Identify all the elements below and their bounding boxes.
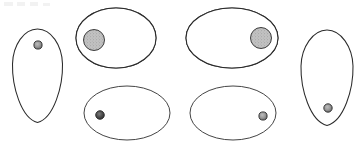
specimen-5-plain-ellipse-pore-right xyxy=(190,86,276,140)
seed-plate-svg xyxy=(0,0,363,148)
specimen-6-pore-icon xyxy=(324,104,332,112)
specimen-5-pore-icon xyxy=(259,112,267,120)
specimen-1-pore-icon xyxy=(34,41,42,49)
specimen-4-plain-ellipse-pore-left xyxy=(84,86,170,140)
specimen-3-hub-icon xyxy=(251,28,272,49)
specimen-4-pore-icon xyxy=(96,111,105,120)
specimen-2-hub-icon xyxy=(84,30,105,51)
figure-canvas xyxy=(0,0,363,148)
